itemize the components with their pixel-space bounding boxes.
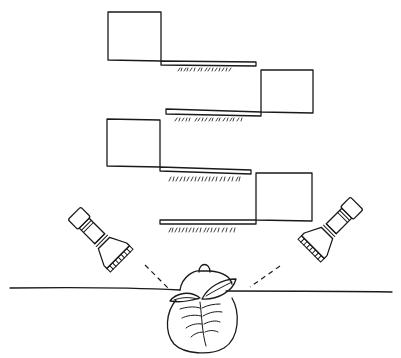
hatching-1 [178,68,231,71]
panel-3 [107,119,251,181]
flashlight-left [63,202,170,290]
panel-2 [166,70,313,121]
hatching-3 [169,177,240,181]
line-drawing [0,0,401,358]
flashlight-right [250,192,368,287]
panel-4 [160,173,312,232]
beam-right [250,266,280,287]
ground-line [10,288,392,292]
beam-left [145,265,170,290]
hatching-2 [175,118,242,121]
bud-object [167,265,237,353]
diagram-canvas [0,0,401,358]
panel-1 [108,12,256,71]
hatching-4 [169,228,235,232]
